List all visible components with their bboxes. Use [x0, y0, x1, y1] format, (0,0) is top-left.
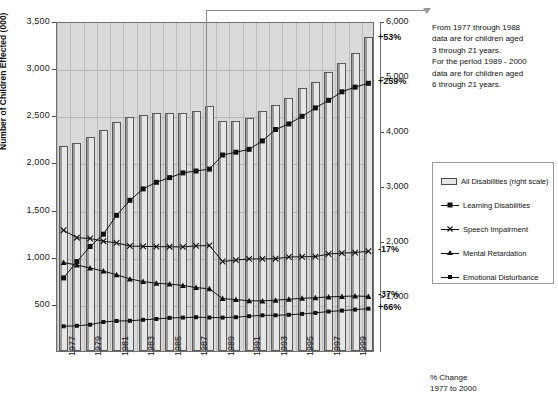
legend-marker-icon	[448, 202, 453, 207]
data-point	[353, 85, 358, 90]
line-mental-retardation	[64, 263, 369, 301]
data-point	[260, 138, 265, 143]
data-point	[194, 315, 198, 319]
data-point	[353, 308, 357, 312]
legend-line-icon	[441, 225, 459, 234]
y-axis-right-tick-label: 6,000	[386, 16, 409, 26]
caption-line: % Change	[430, 372, 477, 383]
data-point	[207, 167, 212, 172]
y-axis-left-tick-label: 500	[4, 299, 50, 309]
data-point	[61, 260, 67, 266]
data-point	[62, 324, 66, 328]
note-line: 3 through 21 years.	[432, 45, 556, 56]
data-point	[234, 315, 238, 319]
y-axis-left-tick-label: 1,000	[4, 252, 50, 262]
x-axis-tick-label: 1983	[146, 336, 156, 356]
data-point	[326, 98, 331, 103]
tick-mark	[52, 22, 56, 23]
y-axis-right-tick-label: 3,000	[386, 181, 409, 191]
data-point	[220, 153, 225, 158]
x-axis-tick-label: 1977	[67, 336, 77, 356]
percent-change-learning-disabilities: +259%	[378, 76, 406, 86]
legend-label: All Disabilities (right scale)	[461, 177, 549, 186]
legend-label: Speech Impairment	[463, 225, 528, 234]
data-point	[287, 313, 291, 317]
data-point	[313, 105, 318, 110]
legend-line-icon	[441, 201, 459, 210]
x-axis-tick-label: 1987	[199, 336, 209, 356]
y-axis-left-tick-label: 2,500	[4, 110, 50, 120]
legend-item-speech-impairment[interactable]: Speech Impairment	[441, 223, 528, 235]
x-axis-tick-label: 1997	[332, 336, 342, 356]
data-point	[128, 319, 132, 323]
data-point	[327, 310, 331, 314]
x-axis-tick-label: 1999	[358, 336, 368, 356]
data-point	[366, 81, 371, 86]
data-point	[286, 121, 291, 126]
x-axis-tick-label: 1995	[305, 336, 315, 356]
percent-change-emotional-disturbance: +66%	[378, 302, 401, 312]
data-point	[221, 316, 225, 320]
data-point	[274, 313, 278, 317]
data-point	[154, 317, 158, 321]
x-axis-tick-label: 1991	[252, 336, 262, 356]
note-line: For the period 1989 - 2000	[432, 56, 556, 67]
legend-item-learning-disabilities[interactable]: Learning Disabilities	[441, 199, 530, 211]
legend-label: Emotional Disturbance	[463, 273, 538, 282]
legend-label: Learning Disabilities	[463, 201, 530, 210]
data-point	[167, 175, 172, 180]
legend-item-mental-retardation[interactable]: Mental Retardation	[441, 247, 526, 259]
line-emotional-disturbance	[64, 309, 369, 327]
callout-arrow-icon	[423, 8, 431, 14]
y-axis-label: Number of Children Effected (000)	[0, 0, 8, 150]
data-point	[247, 314, 251, 318]
caption-line: 1977 to 2000	[430, 383, 477, 394]
x-axis-tick-label: 1979	[93, 336, 103, 356]
data-point	[180, 170, 185, 175]
callout-leader-line	[206, 10, 428, 12]
legend-item-all-disabilities-right-scale-[interactable]: All Disabilities (right scale)	[441, 175, 549, 187]
line-learning-disabilities	[64, 83, 369, 278]
data-point	[340, 309, 344, 313]
legend-marker-icon	[448, 275, 452, 279]
data-point	[88, 323, 92, 327]
data-point	[339, 89, 344, 94]
data-point	[61, 227, 67, 233]
data-point	[260, 313, 264, 317]
percent-change-caption: % Change1977 to 2000	[430, 372, 477, 394]
data-point	[114, 213, 119, 218]
y-axis-left-tick-label: 3,000	[4, 63, 50, 73]
data-point	[233, 150, 238, 155]
data-point	[75, 324, 79, 328]
data-point	[61, 275, 66, 280]
x-axis-tick-label: 1989	[226, 336, 236, 356]
percent-change-mental-retardation: -37%	[378, 289, 399, 299]
tick-mark	[52, 116, 56, 117]
note-line: data are for children aged	[432, 68, 556, 79]
percent-change-speech-impairment: -17%	[378, 244, 399, 254]
tick-mark	[52, 69, 56, 70]
data-point	[273, 127, 278, 132]
line-speech-impairment	[64, 230, 369, 261]
legend-line-icon	[441, 249, 459, 258]
data-point	[141, 186, 146, 191]
chart-page: 3,5003,0002,5002,0001,5001,000500 6,0005…	[0, 0, 558, 415]
legend-marker-icon	[447, 250, 453, 255]
legend-item-emotional-disturbance[interactable]: Emotional Disturbance	[441, 271, 538, 283]
x-axis-tick-label: 1993	[279, 336, 289, 356]
tick-mark	[52, 258, 56, 259]
data-point	[115, 319, 119, 323]
data-definition-note: From 1977 through 1988data are for child…	[432, 22, 556, 90]
data-point	[101, 232, 106, 237]
tick-mark	[52, 211, 56, 212]
legend-marker-icon	[448, 226, 453, 231]
y-axis-left-tick-label: 1,500	[4, 205, 50, 215]
y-axis-left-tick-label: 3,500	[4, 16, 50, 26]
data-point	[313, 311, 317, 315]
data-point	[300, 312, 304, 316]
note-line: 6 through 21 years.	[432, 79, 556, 90]
data-point	[194, 169, 199, 174]
data-point	[141, 318, 145, 322]
chart-legend: All Disabilities (right scale)Learning D…	[432, 162, 554, 284]
y-axis-left-tick-label: 2,000	[4, 157, 50, 167]
